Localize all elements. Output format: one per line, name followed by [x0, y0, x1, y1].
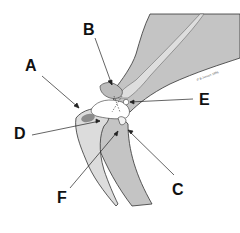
label-c: C [172, 182, 184, 198]
small-bone-e [123, 99, 128, 104]
label-d: D [14, 126, 26, 142]
label-b: B [83, 22, 95, 38]
label-e: E [199, 92, 210, 108]
label-a: A [25, 58, 37, 74]
upper-bone [113, 14, 240, 114]
label-f: F [57, 190, 67, 206]
joint-anatomy-diagram [0, 0, 240, 233]
lower-bone [95, 116, 152, 206]
